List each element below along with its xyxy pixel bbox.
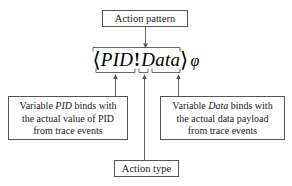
box-data-binding-line3: from trace events: [161, 125, 284, 138]
box-data-binding-line1-suffix: binds with: [228, 100, 272, 111]
arrowhead-action-pattern: [143, 43, 148, 48]
variable-data: Data: [141, 49, 180, 70]
box-data-binding: Variable Data binds with the actual data…: [160, 96, 285, 140]
box-data-binding-line1-italic: Data: [208, 100, 228, 111]
box-action-type: Action type: [114, 160, 179, 177]
box-pid-binding: Variable PID binds with the actual value…: [8, 96, 128, 140]
box-pid-binding-line1-italic: PID: [55, 100, 72, 111]
action-pattern-formula: ⟨PID!Data⟩φ: [0, 50, 292, 70]
box-pid-binding-line2: the actual value of PID: [9, 113, 127, 126]
close-angle-bracket: ⟩: [180, 48, 188, 72]
box-data-binding-line1-prefix: Variable: [172, 100, 208, 111]
arrowhead-data-binding: [176, 74, 181, 79]
connector-overlay: [0, 0, 292, 186]
box-action-pattern-label: Action pattern: [115, 13, 175, 24]
box-data-binding-line2: the actual data payload: [161, 113, 284, 126]
box-data-binding-line1: Variable Data binds with: [161, 100, 284, 113]
box-pid-binding-line3: from trace events: [9, 125, 127, 138]
open-angle-bracket: ⟨: [92, 48, 100, 72]
box-pid-binding-line1-prefix: Variable: [20, 100, 56, 111]
diagram-canvas: Action pattern ⟨PID!Data⟩φ Variable PID …: [0, 0, 292, 186]
variable-pid: PID: [101, 49, 133, 70]
arrowhead-pid-binding: [113, 74, 118, 79]
box-action-type-label: Action type: [122, 163, 171, 174]
box-pid-binding-line1: Variable PID binds with: [9, 100, 127, 113]
box-pid-binding-line1-suffix: binds with: [72, 100, 116, 111]
box-action-pattern: Action pattern: [102, 10, 188, 27]
arrowhead-action-type: [142, 74, 147, 79]
phi-symbol: φ: [189, 52, 200, 69]
